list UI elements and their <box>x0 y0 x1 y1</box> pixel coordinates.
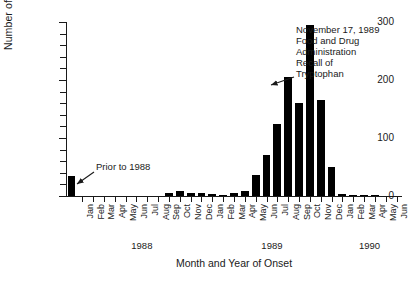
x-tick <box>299 197 300 202</box>
bar <box>176 191 184 196</box>
x-tick-label: Dec <box>335 204 344 220</box>
x-tick-label: Oct <box>183 204 192 218</box>
x-tick-label: Aug <box>292 204 301 220</box>
x-axis-year-label: 1988 <box>77 241 207 251</box>
x-tick <box>104 197 105 202</box>
bar <box>208 194 216 196</box>
bar <box>252 175 260 196</box>
x-tick-label: Apr <box>378 204 387 218</box>
y-axis-title: Number of Cases <box>2 0 14 50</box>
bar <box>263 155 271 196</box>
x-tick-label: Jul <box>151 204 160 216</box>
x-tick <box>310 197 311 202</box>
x-tick <box>212 197 213 202</box>
x-tick <box>397 197 398 202</box>
x-tick-label: Feb <box>357 204 366 220</box>
x-axis-year-label: 1990 <box>337 241 402 251</box>
bar <box>165 193 173 196</box>
x-tick-label: Nov <box>324 204 333 220</box>
x-tick-label: Sep <box>303 204 312 220</box>
bar <box>338 194 346 196</box>
x-tick <box>245 197 246 202</box>
x-tick <box>115 197 116 202</box>
x-tick <box>321 197 322 202</box>
x-tick <box>342 197 343 202</box>
y-tick-major <box>59 196 66 197</box>
x-tick <box>223 197 224 202</box>
x-tick <box>277 197 278 202</box>
x-tick <box>147 197 148 202</box>
x-tick <box>93 197 94 202</box>
bar <box>371 195 379 196</box>
x-tick-label: May <box>129 204 138 221</box>
x-tick <box>82 197 83 202</box>
x-tick <box>288 197 289 202</box>
epidemic-curve-chart: Number of Cases 0100200300 Month and Yea… <box>0 0 412 284</box>
x-tick <box>267 197 268 202</box>
x-tick <box>256 197 257 202</box>
x-tick-label: Apr <box>118 204 127 218</box>
x-tick-label: May <box>389 204 398 221</box>
x-tick <box>191 197 192 202</box>
annotation-prior-to-1988: Prior to 1988 <box>96 161 150 172</box>
x-tick-label: Dec <box>205 204 214 220</box>
bar <box>273 124 281 197</box>
x-tick <box>201 197 202 202</box>
x-tick-label: Mar <box>238 204 247 220</box>
x-tick-label: Sep <box>172 204 181 220</box>
x-tick <box>353 197 354 202</box>
y-tick-major <box>59 22 66 23</box>
bar <box>230 193 238 196</box>
y-tick-major <box>59 80 66 81</box>
x-tick-label: Jun <box>400 204 409 219</box>
bar <box>295 103 303 196</box>
x-tick-label: Mar <box>368 204 377 220</box>
x-tick-label: Jan <box>216 204 225 219</box>
x-tick <box>126 197 127 202</box>
x-tick <box>169 197 170 202</box>
bar <box>68 176 76 196</box>
x-axis-title: Month and Year of Onset <box>66 257 402 269</box>
x-axis-year-label: 1989 <box>207 241 337 251</box>
y-tick-major <box>59 138 66 139</box>
annotation-fda-recall: November 17, 1989 Food and Drug Administ… <box>296 24 379 79</box>
x-tick <box>158 197 159 202</box>
x-tick <box>180 197 181 202</box>
x-tick <box>234 197 235 202</box>
x-tick-label: Mar <box>107 204 116 220</box>
x-tick-label: Feb <box>97 204 106 220</box>
bar <box>187 193 195 196</box>
x-tick-label: Jul <box>281 204 290 216</box>
x-tick <box>375 197 376 202</box>
x-tick-label: Nov <box>194 204 203 220</box>
bar <box>360 195 368 196</box>
bar <box>349 195 357 196</box>
bar <box>219 195 227 196</box>
x-tick-label: Oct <box>313 204 322 218</box>
x-tick-label: Feb <box>227 204 236 220</box>
x-tick-label: Jun <box>270 204 279 219</box>
x-tick <box>332 197 333 202</box>
x-tick-label: Apr <box>248 204 257 218</box>
x-tick <box>386 197 387 202</box>
bar <box>198 193 206 196</box>
x-tick-label: Jan <box>86 204 95 219</box>
x-tick <box>364 197 365 202</box>
x-tick-label: Jan <box>346 204 355 219</box>
bar <box>241 191 249 196</box>
bar <box>284 77 292 196</box>
bar <box>328 167 336 196</box>
x-tick <box>136 197 137 202</box>
bar <box>317 100 325 196</box>
x-axis-tick-group: Month and Year of Onset JanFebMarAprMayJ… <box>66 197 402 284</box>
x-tick-label: Jun <box>140 204 149 219</box>
x-tick-label: May <box>259 204 268 221</box>
x-tick-label: Aug <box>162 204 171 220</box>
